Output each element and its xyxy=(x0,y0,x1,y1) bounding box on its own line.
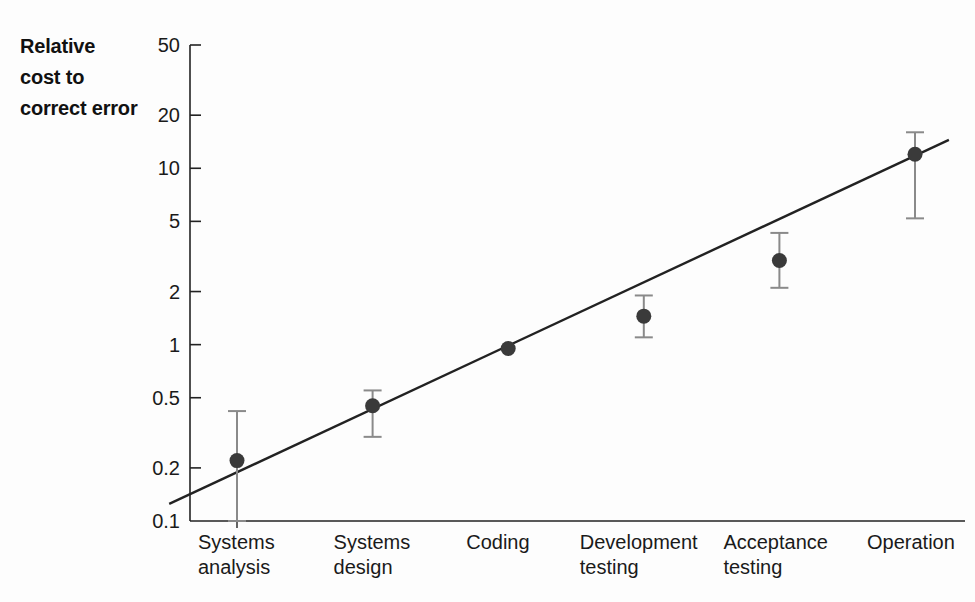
x-axis-tick-label: Coding xyxy=(466,530,529,555)
relative-cost-to-correct-error-chart: Relative cost to correct error 502010521… xyxy=(0,0,975,602)
y-axis-tick-label: 50 xyxy=(128,35,180,55)
y-axis-tick-label: 1 xyxy=(128,335,180,355)
data-point-marker xyxy=(365,398,380,413)
x-axis-tick-label-line: Coding xyxy=(466,530,529,555)
data-point-marker xyxy=(636,309,651,324)
x-axis-tick-label-line: testing xyxy=(723,555,828,580)
x-axis-tick-label-line: Systems xyxy=(198,530,275,555)
y-axis-tick-label: 0.5 xyxy=(128,388,180,408)
x-axis-tick-label-line: testing xyxy=(580,555,698,580)
trend-line xyxy=(169,140,949,504)
x-axis-tick-label: Acceptancetesting xyxy=(723,530,828,580)
x-axis-tick-label-line: Systems xyxy=(334,530,411,555)
y-axis-tick-label: 0.2 xyxy=(128,458,180,478)
data-point-marker xyxy=(230,453,245,468)
data-point-marker xyxy=(501,341,516,356)
x-axis-tick-label: Systemsdesign xyxy=(334,530,411,580)
y-axis-tick-label: 10 xyxy=(128,158,180,178)
x-axis-tick-label: Developmenttesting xyxy=(580,530,698,580)
x-axis-tick-label-line: design xyxy=(334,555,411,580)
x-axis-tick-label-line: Acceptance xyxy=(723,530,828,555)
x-axis-tick-label-line: Development xyxy=(580,530,698,555)
data-points xyxy=(230,147,923,468)
x-axis-tick-label-line: Operation xyxy=(867,530,955,555)
y-axis-tick-label: 2 xyxy=(128,282,180,302)
x-axis-tick-label: Systemsanalysis xyxy=(198,530,275,580)
axes xyxy=(190,45,965,528)
trend-line-segment xyxy=(169,140,949,504)
y-axis-tick-label: 20 xyxy=(128,105,180,125)
x-axis-tick-label: Operation xyxy=(867,530,955,555)
x-axis-tick-label-line: analysis xyxy=(198,555,275,580)
y-axis-tick-label: 5 xyxy=(128,211,180,231)
error-bars xyxy=(228,132,924,521)
data-point-marker xyxy=(908,147,923,162)
y-axis-tick-label: 0.1 xyxy=(128,511,180,531)
data-point-marker xyxy=(772,253,787,268)
